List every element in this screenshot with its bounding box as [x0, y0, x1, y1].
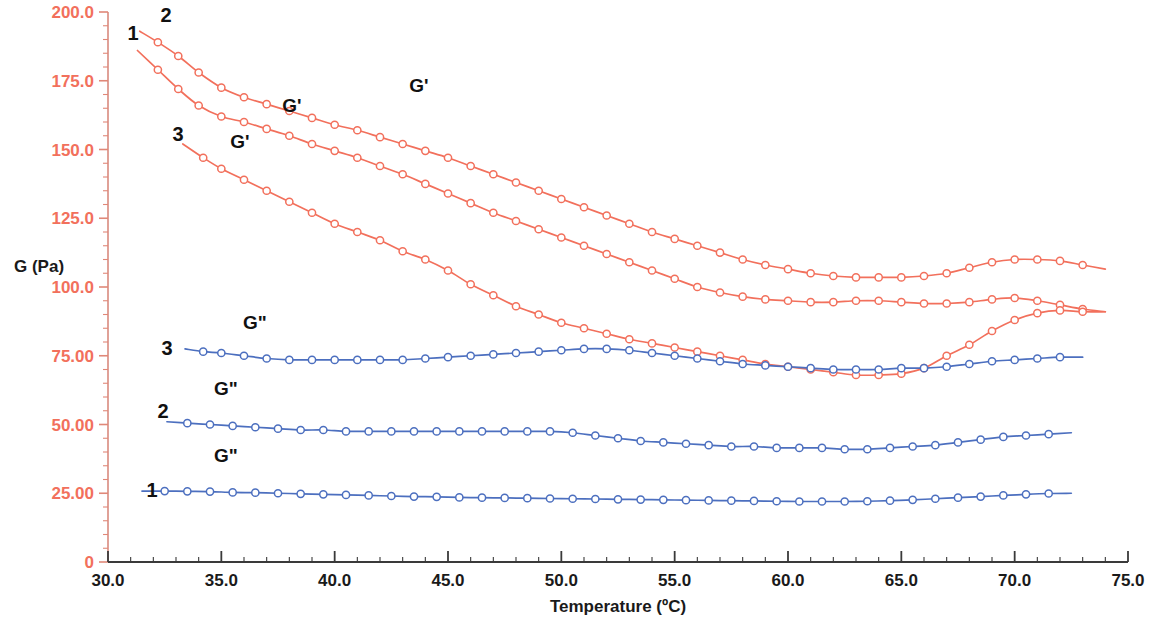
data-point-marker — [342, 428, 349, 435]
data-point-marker — [331, 121, 338, 128]
data-point-marker — [240, 176, 247, 183]
data-point-marker — [218, 84, 225, 91]
series-number-label: 2 — [157, 400, 168, 422]
data-point-marker — [433, 428, 440, 435]
data-point-marker — [830, 272, 837, 279]
data-point-marker — [1000, 492, 1007, 499]
data-point-marker — [920, 300, 927, 307]
data-point-marker — [977, 436, 984, 443]
data-point-marker — [354, 228, 361, 235]
data-point-marker — [716, 289, 723, 296]
data-point-marker — [648, 340, 655, 347]
data-point-marker — [682, 440, 689, 447]
data-point-marker — [558, 347, 565, 354]
data-point-marker — [535, 348, 542, 355]
series-modulus-label: G' — [282, 95, 301, 116]
data-point-marker — [331, 356, 338, 363]
data-point-marker — [444, 154, 451, 161]
data-point-marker — [456, 428, 463, 435]
data-point-marker — [943, 352, 950, 359]
y-axis-title: G (Pa) — [14, 257, 64, 276]
data-point-marker — [626, 336, 633, 343]
data-point-marker — [762, 362, 769, 369]
series-loss-modulus-1 — [142, 487, 1071, 505]
data-point-marker — [320, 491, 327, 498]
x-axis-tick-label: 35.0 — [205, 571, 238, 590]
y-axis-tick-label: 125.0 — [51, 209, 94, 228]
data-point-marker — [308, 209, 315, 216]
data-point-marker — [376, 162, 383, 169]
data-point-marker — [422, 256, 429, 263]
data-point-marker — [490, 292, 497, 299]
data-point-marker — [773, 498, 780, 505]
data-point-marker — [898, 274, 905, 281]
data-point-marker — [592, 432, 599, 439]
data-point-marker — [410, 428, 417, 435]
data-point-marker — [626, 259, 633, 266]
data-point-marker — [1056, 257, 1063, 264]
data-point-marker — [954, 494, 961, 501]
data-point-marker — [218, 113, 225, 120]
data-point-marker — [286, 198, 293, 205]
data-point-marker — [660, 439, 667, 446]
series-line — [140, 31, 1106, 277]
data-point-marker — [694, 355, 701, 362]
data-point-marker — [263, 187, 270, 194]
data-point-marker — [648, 349, 655, 356]
series-storage-modulus-1 — [137, 51, 1105, 313]
y-axis-tick-label: 200.0 — [51, 3, 94, 22]
data-point-marker — [603, 345, 610, 352]
data-point-marker — [864, 498, 871, 505]
data-point-marker — [444, 354, 451, 361]
series-number-label: 3 — [161, 337, 172, 359]
data-point-marker — [175, 85, 182, 92]
data-point-marker — [200, 154, 207, 161]
data-point-marker — [898, 299, 905, 306]
data-point-marker — [1056, 354, 1063, 361]
data-point-marker — [1011, 256, 1018, 263]
x-axis-tick-label: 45.0 — [431, 571, 464, 590]
data-point-marker — [342, 491, 349, 498]
data-point-marker — [694, 283, 701, 290]
series-modulus-label: G' — [230, 131, 249, 152]
data-point-marker — [580, 345, 587, 352]
data-point-marker — [739, 293, 746, 300]
data-point-marker — [388, 428, 395, 435]
data-point-marker — [376, 134, 383, 141]
series-modulus-label: G" — [214, 378, 238, 399]
data-point-marker — [252, 489, 259, 496]
data-point-marker — [818, 444, 825, 451]
data-point-marker — [195, 102, 202, 109]
data-point-marker — [909, 443, 916, 450]
data-point-marker — [807, 270, 814, 277]
data-point-marker — [422, 147, 429, 154]
data-point-marker — [184, 420, 191, 427]
data-point-marker — [263, 125, 270, 132]
data-point-marker — [739, 256, 746, 263]
data-point-marker — [1022, 491, 1029, 498]
data-point-marker — [818, 498, 825, 505]
data-point-marker — [331, 220, 338, 227]
data-point-marker — [490, 351, 497, 358]
data-point-marker — [422, 355, 429, 362]
data-point-marker — [920, 365, 927, 372]
data-point-marker — [580, 204, 587, 211]
data-point-marker — [966, 341, 973, 348]
data-point-marker — [512, 303, 519, 310]
data-point-marker — [467, 200, 474, 207]
data-point-marker — [546, 495, 553, 502]
x-axis-tick-label: 50.0 — [545, 571, 578, 590]
data-point-marker — [614, 435, 621, 442]
data-point-marker — [1034, 355, 1041, 362]
data-point-marker — [308, 140, 315, 147]
data-point-marker — [705, 497, 712, 504]
data-point-marker — [161, 487, 168, 494]
data-point-marker — [943, 270, 950, 277]
data-point-marker — [977, 493, 984, 500]
data-point-marker — [1079, 261, 1086, 268]
series-number-label: 3 — [172, 123, 183, 145]
data-point-marker — [592, 495, 599, 502]
data-point-marker — [1011, 356, 1018, 363]
data-point-marker — [240, 94, 247, 101]
data-point-marker — [909, 496, 916, 503]
